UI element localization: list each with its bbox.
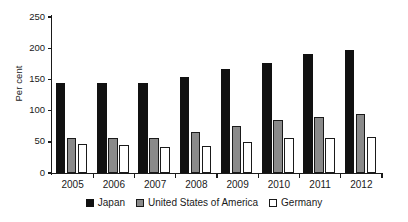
legend-swatch-icon (269, 199, 277, 207)
plot-area: 0501001502002502005200620072008200920102… (52, 17, 382, 173)
x-axis-tick-mark (299, 173, 300, 178)
x-axis-tick-mark (340, 173, 341, 178)
bar-united-states-of-america-2011 (314, 117, 324, 173)
legend-label: Japan (98, 197, 125, 208)
bar-united-states-of-america-2005 (67, 138, 77, 173)
y-axis-tick-mark (48, 172, 53, 173)
bar-japan-2010 (262, 63, 272, 173)
y-axis-tick-label: 250 (29, 11, 45, 22)
y-axis-tick-label: 100 (29, 104, 45, 115)
x-axis-tick-mark (93, 173, 94, 178)
y-axis-tick-label: 150 (29, 73, 45, 84)
legend-swatch-icon (136, 199, 144, 207)
bar-germany-2012 (367, 137, 377, 173)
legend-swatch-icon (86, 199, 94, 207)
x-axis-tick-mark (258, 173, 259, 178)
bar-united-states-of-america-2006 (108, 138, 118, 173)
y-axis-tick-label: 0 (40, 167, 45, 178)
bar-japan-2007 (138, 83, 148, 173)
bar-united-states-of-america-2008 (191, 132, 201, 173)
x-axis-tick-label: 2007 (144, 179, 166, 190)
bar-germany-2005 (78, 144, 88, 173)
bar-germany-2011 (325, 138, 335, 173)
x-axis-tick-label: 2011 (309, 179, 331, 190)
bar-united-states-of-america-2012 (356, 114, 366, 173)
legend-label: Germany (281, 197, 322, 208)
bar-japan-2011 (303, 54, 313, 173)
legend-item-germany[interactable]: Germany (269, 197, 322, 208)
y-axis-label: Per cent (13, 49, 24, 119)
bar-chart: Per cent 0501001502002502005200620072008… (0, 0, 408, 222)
bar-germany-2009 (243, 142, 253, 173)
y-axis-tick-mark (48, 16, 53, 17)
bar-japan-2009 (221, 69, 231, 173)
legend-item-united-states-of-america[interactable]: United States of America (136, 197, 258, 208)
legend-item-japan[interactable]: Japan (86, 197, 125, 208)
y-axis-tick-mark (48, 141, 53, 142)
bar-united-states-of-america-2010 (273, 120, 283, 173)
bar-japan-2005 (56, 83, 66, 173)
x-axis-tick-mark (134, 173, 135, 178)
bar-germany-2006 (119, 145, 129, 173)
bar-germany-2008 (202, 146, 212, 173)
bar-japan-2012 (345, 50, 355, 173)
bar-united-states-of-america-2007 (149, 138, 159, 173)
bar-germany-2010 (284, 138, 294, 173)
x-axis-tick-label: 2012 (350, 179, 372, 190)
x-axis-tick-label: 2006 (103, 179, 125, 190)
x-axis-tick-mark (175, 173, 176, 178)
y-axis-tick-mark (48, 79, 53, 80)
legend-label: United States of America (148, 197, 258, 208)
y-axis-tick-mark (48, 48, 53, 49)
y-axis-tick-mark (48, 110, 53, 111)
bar-japan-2008 (180, 77, 190, 173)
bar-germany-2007 (160, 147, 170, 173)
bar-japan-2006 (97, 83, 107, 173)
y-axis-tick-label: 50 (34, 135, 45, 146)
x-axis-tick-label: 2008 (185, 179, 207, 190)
bar-united-states-of-america-2009 (232, 126, 242, 173)
x-axis-tick-label: 2005 (62, 179, 84, 190)
chart-legend: JapanUnited States of AmericaGermany (0, 197, 408, 208)
x-axis-tick-label: 2010 (268, 179, 290, 190)
y-axis-tick-label: 200 (29, 42, 45, 53)
x-axis-tick-mark (381, 173, 382, 178)
x-axis-tick-label: 2009 (227, 179, 249, 190)
x-axis-tick-mark (216, 173, 217, 178)
